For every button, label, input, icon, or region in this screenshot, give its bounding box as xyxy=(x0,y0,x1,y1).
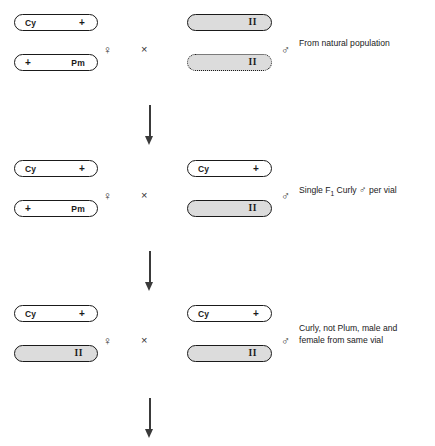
female-bottom-chromosome: + Pm xyxy=(14,200,98,217)
annotation-line-1: From natural population xyxy=(299,38,390,48)
cross-row-f1: Cy + + Pm ♀ × Cy + II ♂ Single F1 Curly … xyxy=(0,160,435,240)
cross-symbol: × xyxy=(141,335,147,346)
female-top-chromosome: Cy + xyxy=(14,160,98,177)
chromosome-number-label: II xyxy=(249,58,257,68)
gene-label-right: + xyxy=(253,164,259,174)
row-annotation: From natural population xyxy=(299,38,431,50)
male-bottom-chromosome: II xyxy=(187,200,272,217)
male-top-chromosome: II xyxy=(187,14,272,31)
cross-symbol: × xyxy=(141,44,147,55)
gene-label-left: Cy xyxy=(25,164,36,173)
arrow-shaft xyxy=(149,398,151,431)
arrow-head xyxy=(145,282,153,291)
male-bottom-chromosome: II xyxy=(187,54,272,71)
cross-row-f2: Cy + II ♀ × Cy + II ♂ Curly, not Plum, m… xyxy=(0,305,435,385)
male-symbol: ♂ xyxy=(281,190,290,202)
male-bottom-chromosome: II xyxy=(187,345,272,362)
chromosome-number-label: II xyxy=(249,349,257,359)
arrow-shaft xyxy=(149,251,151,284)
annotation-line-1: Single F1 Curly ♂ per vial xyxy=(299,185,397,195)
female-symbol: ♀ xyxy=(103,44,112,56)
female-symbol: ♀ xyxy=(103,190,112,202)
arrow-f1-to-f2 xyxy=(143,251,157,291)
arrow-shaft xyxy=(149,105,151,138)
arrow-head xyxy=(145,429,153,438)
gene-label-left: Cy xyxy=(198,164,209,173)
female-top-chromosome: Cy + xyxy=(14,14,98,31)
arrow-f2-to-next xyxy=(143,398,157,438)
annotation-line-1: Curly, not Plum, male and xyxy=(299,323,431,335)
male-symbol: ♂ xyxy=(281,335,290,347)
row-annotation: Curly, not Plum, male and female from sa… xyxy=(299,323,431,346)
cross-row-p: Cy + + Pm ♀ × II II ♂ From natural popul… xyxy=(0,14,435,94)
male-top-chromosome: Cy + xyxy=(187,160,272,177)
gene-label-left: Cy xyxy=(25,309,36,318)
male-top-chromosome: Cy + xyxy=(187,305,272,322)
female-bottom-chromosome: + Pm xyxy=(14,54,98,71)
gene-label-right: Pm xyxy=(71,58,85,67)
gene-label-right: + xyxy=(79,309,85,319)
female-symbol: ♀ xyxy=(103,335,112,347)
gene-label-left: + xyxy=(25,204,31,214)
arrow-p-to-f1 xyxy=(143,105,157,145)
male-symbol: ♂ xyxy=(281,44,290,56)
gene-label-right: + xyxy=(79,164,85,174)
gene-label-left: Cy xyxy=(25,18,36,27)
gene-label-right: + xyxy=(79,18,85,28)
arrow-head xyxy=(145,136,153,145)
gene-label-right: Pm xyxy=(71,204,85,213)
gene-label-right: + xyxy=(253,309,259,319)
chromosome-number-label: II xyxy=(249,18,257,28)
female-bottom-chromosome: II xyxy=(14,345,98,362)
chromosome-number-label: II xyxy=(249,204,257,214)
gene-label-left: Cy xyxy=(198,309,209,318)
annotation-line-2: female from same vial xyxy=(299,335,431,347)
cross-symbol: × xyxy=(141,190,147,201)
female-top-chromosome: Cy + xyxy=(14,305,98,322)
chromosome-number-label: II xyxy=(75,349,83,359)
cross-scheme-diagram: { "diagram": { "title": "Drosophila bala… xyxy=(0,0,435,446)
gene-label-left: + xyxy=(25,58,31,68)
row-annotation: Single F1 Curly ♂ per vial xyxy=(299,184,431,199)
